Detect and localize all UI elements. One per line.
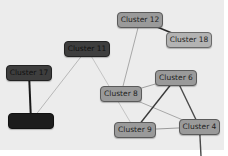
- node-cluster-9[interactable]: Cluster 9: [114, 122, 156, 138]
- node-unlabeled[interactable]: [8, 113, 54, 129]
- node-cluster-17[interactable]: Cluster 17: [6, 65, 52, 81]
- node-cluster-6[interactable]: Cluster 6: [155, 70, 197, 86]
- node-cluster-4[interactable]: Cluster 4: [179, 119, 220, 135]
- node-cluster-12[interactable]: Cluster 12: [117, 12, 163, 28]
- node-cluster-11[interactable]: Cluster 11: [64, 41, 110, 57]
- edge-c11-c_unlabeled: [31, 49, 87, 121]
- node-cluster-18[interactable]: Cluster 18: [166, 32, 212, 48]
- edge-c12-c8: [121, 20, 140, 94]
- node-cluster-8[interactable]: Cluster 8: [100, 86, 142, 102]
